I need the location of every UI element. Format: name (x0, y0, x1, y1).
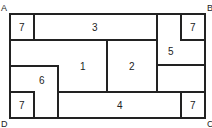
region-1: 1 (80, 61, 86, 72)
region-7-top-left: 7 (19, 22, 25, 33)
region-7-bottom-right: 7 (190, 100, 196, 111)
region-6: 6 (39, 75, 45, 86)
corner-b: B (207, 3, 212, 13)
floorplan-diagram: A B C D 7 3 7 5 1 2 6 7 4 7 (0, 0, 212, 128)
region-2: 2 (129, 61, 135, 72)
corner-c: C (207, 119, 212, 128)
region-7-bottom-left: 7 (19, 100, 25, 111)
region-4: 4 (117, 100, 123, 111)
corner-d: D (1, 119, 8, 128)
corner-a: A (1, 3, 7, 13)
region-5: 5 (168, 46, 174, 57)
diagram-lines (10, 14, 205, 118)
region-7-top-right: 7 (190, 22, 196, 33)
region-3: 3 (92, 22, 98, 33)
